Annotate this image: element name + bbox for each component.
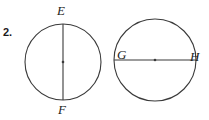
geometry-figure: 2. E F G H: [0, 0, 209, 120]
left-circle-center-dot: [62, 61, 65, 64]
left-circle-group: [25, 24, 101, 100]
point-label-H: H: [190, 50, 199, 63]
right-circle-center-dot: [154, 59, 157, 62]
point-label-F: F: [58, 103, 66, 116]
point-label-E: E: [57, 4, 65, 17]
circles-diagram: [0, 0, 209, 120]
point-label-G: G: [117, 48, 126, 61]
